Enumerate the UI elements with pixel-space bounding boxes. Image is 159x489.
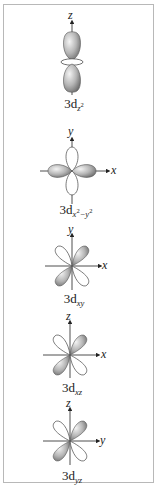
axis-label-x: x bbox=[111, 163, 116, 178]
axis-label-y: y bbox=[100, 433, 105, 448]
axis-label-x: x bbox=[102, 258, 107, 273]
axis-label-x: x bbox=[101, 347, 106, 362]
axis-label-y: y bbox=[68, 124, 73, 139]
orbital-dz2 bbox=[61, 22, 83, 95]
axis-label-z: z bbox=[66, 396, 71, 411]
orbital-dxy bbox=[45, 235, 100, 290]
orbital-dxz bbox=[43, 322, 98, 378]
orbital-dyz bbox=[43, 409, 98, 465]
axis-label-z: z bbox=[68, 8, 73, 23]
orbital-label-dyz: 3dyz bbox=[62, 468, 82, 485]
orbital-diagram bbox=[0, 0, 159, 489]
orbital-label-dxz: 3dxz bbox=[62, 380, 82, 397]
axis-label-z: z bbox=[66, 309, 71, 324]
orbital-label-dxy: 3dxy bbox=[64, 291, 85, 308]
axis-label-y: y bbox=[68, 222, 73, 237]
orbital-label-dx2-y2: 3dx2−y2 bbox=[60, 202, 93, 219]
orbital-label-dz2: 3dz2 bbox=[64, 96, 84, 113]
orbital-dx2-y2 bbox=[40, 139, 108, 204]
